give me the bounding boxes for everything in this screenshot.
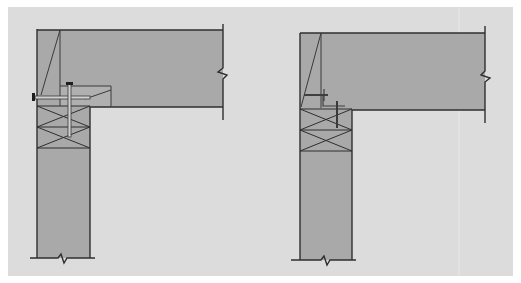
bolt-head-icon — [66, 82, 73, 85]
bolt-head-icon — [32, 93, 35, 101]
diagram-canvas — [0, 0, 521, 283]
